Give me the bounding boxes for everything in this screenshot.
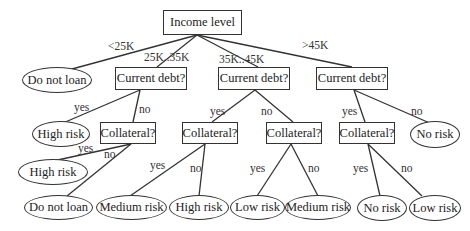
edge-label-coll4-yes: yes	[353, 163, 368, 175]
edge-label-debt3-no: no	[411, 106, 423, 118]
leaf-no-risk-debt3-no: No risk	[410, 121, 460, 148]
edge-label-coll2-no: no	[190, 163, 202, 175]
node-label: Collateral?	[101, 126, 156, 141]
node-collateral-1: Collateral?	[100, 122, 156, 144]
node-label: Collateral?	[183, 126, 238, 141]
leaf-low-risk-coll3-yes: Low risk	[230, 195, 285, 220]
node-label: Medium risk	[286, 200, 350, 215]
edge-label-35k-45k: 35K..45K	[219, 54, 264, 66]
node-label: Income level	[170, 15, 235, 30]
edge-label-25k-35k: 25K..35K	[144, 52, 189, 64]
edge-label-gt45k: >45K	[302, 40, 328, 52]
node-collateral-3: Collateral?	[266, 122, 322, 144]
node-label: High risk	[30, 165, 77, 180]
node-label: No risk	[363, 201, 400, 216]
leaf-high-risk-coll1-yes: High risk	[18, 159, 88, 185]
node-label: Current debt?	[318, 71, 386, 86]
node-label: Low risk	[413, 201, 458, 216]
leaf-medium-risk-coll2-yes: Medium risk	[96, 195, 167, 220]
node-current-debt-35-45k: Current debt?	[218, 67, 290, 90]
leaf-do-not-loan-coll1-no: Do not loan	[24, 195, 93, 220]
node-label: Collateral?	[340, 126, 395, 141]
node-label: High risk	[38, 127, 85, 142]
edge-label-debt1-yes: yes	[74, 102, 89, 114]
edge-label-debt3-yes: yes	[342, 106, 357, 118]
leaf-low-risk-coll4-no: Low risk	[409, 195, 461, 221]
leaf-no-risk-coll4-yes: No risk	[357, 195, 407, 221]
leaf-do-not-loan-lt25k: Do not loan	[22, 67, 92, 93]
node-label: Current debt?	[117, 71, 185, 86]
node-label: Medium risk	[99, 200, 163, 215]
edge-label-coll3-no: no	[308, 163, 320, 175]
edge-label-coll4-no: no	[401, 163, 413, 175]
node-label: Current debt?	[220, 71, 288, 86]
edge-label-debt2-no: no	[261, 106, 273, 118]
edge-label-coll2-yes: yes	[150, 160, 165, 172]
leaf-medium-risk-coll3-no: Medium risk	[285, 195, 351, 220]
node-collateral-2: Collateral?	[182, 122, 238, 144]
leaf-high-risk-coll2-no: High risk	[169, 195, 229, 220]
edge-label-coll1-no: no	[104, 149, 116, 161]
node-label: Low risk	[235, 200, 280, 215]
node-current-debt-gt45k: Current debt?	[316, 67, 388, 90]
node-label: Collateral?	[267, 126, 322, 141]
node-current-debt-25-35k: Current debt?	[115, 67, 187, 90]
edge-label-debt2-yes: yes	[210, 106, 225, 118]
node-collateral-4: Collateral?	[339, 122, 395, 144]
node-label: Do not loan	[27, 73, 86, 88]
node-label: High risk	[176, 200, 223, 215]
edge-label-debt1-no: no	[139, 104, 151, 116]
node-income-level: Income level	[163, 10, 242, 35]
edge-label-coll3-yes: yes	[250, 163, 265, 175]
node-label: Do not loan	[29, 200, 88, 215]
node-label: No risk	[416, 127, 453, 142]
edge-label-coll1-yes: yes	[78, 143, 93, 155]
edge-label-lt25k: <25K	[108, 41, 134, 53]
